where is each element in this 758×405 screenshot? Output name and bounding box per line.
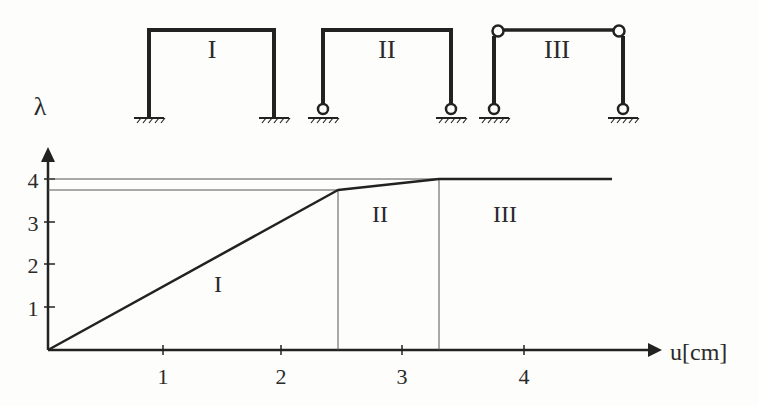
x-tick-2: 2 [276,364,287,389]
frame-label-III: III [544,35,570,64]
load-displacement-line [48,179,612,350]
x-axis-arrow-icon [648,343,662,357]
y-tick-3: 3 [28,211,39,236]
region-label-I: I [214,271,222,297]
y-tick-2: 2 [28,253,39,278]
x-tick-1: 1 [158,364,169,389]
region-label-III: III [493,201,517,227]
x-tick-4: 4 [519,364,530,389]
x-tick-3: 3 [397,364,408,389]
chart-canvas: I II III [0,0,758,405]
y-tick-1: 1 [28,296,39,321]
frame-label-I: I [208,35,217,64]
x-axis-label: u[cm] [670,339,727,365]
region-label-II: II [372,201,388,227]
y-tick-4: 4 [28,168,39,193]
y-axis-label: λ [34,92,47,121]
y-axis-arrow-icon [41,147,55,162]
frame-label-II: II [378,35,395,64]
